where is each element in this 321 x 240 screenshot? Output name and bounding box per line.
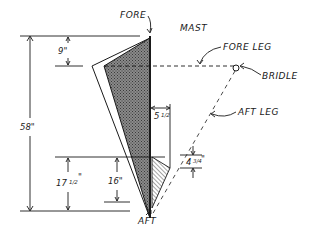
label-fore-leg: FORE LEG (223, 42, 272, 52)
bridle-ring (233, 65, 239, 71)
bridle-pointer (240, 63, 261, 75)
dim-17-inch-mark: " (78, 172, 82, 182)
dim-17-fraction: 1/2 (69, 179, 78, 185)
label-aft-leg: AFT LEG (237, 107, 279, 117)
dim-4-inch-mark: " (201, 154, 205, 164)
aft-leg-line (152, 71, 235, 215)
dim-58-label: 58" (20, 122, 35, 132)
label-aft: AFT (137, 216, 157, 226)
label-bridle: BRIDLE (262, 71, 298, 81)
label-fore: FORE (120, 10, 146, 20)
fore-leg-pointer (197, 47, 221, 64)
fore-arrow (147, 16, 152, 33)
aft-leg-pointer (211, 111, 236, 117)
dim-9-label: 9" (58, 46, 67, 56)
dim-16-label: 16" (108, 176, 123, 186)
dim-17-label: 17 (56, 178, 67, 188)
dim-5-fraction: 1/2 (161, 112, 170, 118)
sail-shaded (104, 38, 150, 218)
label-mast: MAST (180, 23, 208, 33)
dim-5-label: 5 (154, 111, 159, 121)
fin-hatched (152, 157, 170, 208)
dim-4-label: 4 (186, 157, 191, 167)
kite-rig-diagram: FORE MAST FORE LEG BRIDLE AFT LEG AFT 58… (0, 0, 321, 240)
